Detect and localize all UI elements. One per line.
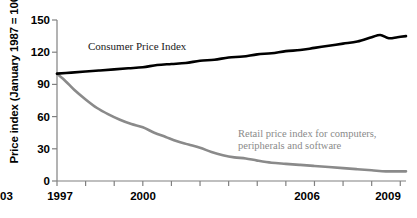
y-axis-ticks: [52, 20, 57, 181]
price-index-line-chart: Price index (January 1987 = 100) 150 120…: [0, 0, 417, 218]
plot-area: [0, 0, 417, 218]
consumer-price-index-line: [57, 35, 406, 74]
retail-price-index-line: [57, 74, 406, 172]
x-axis-ticks: [57, 181, 400, 186]
